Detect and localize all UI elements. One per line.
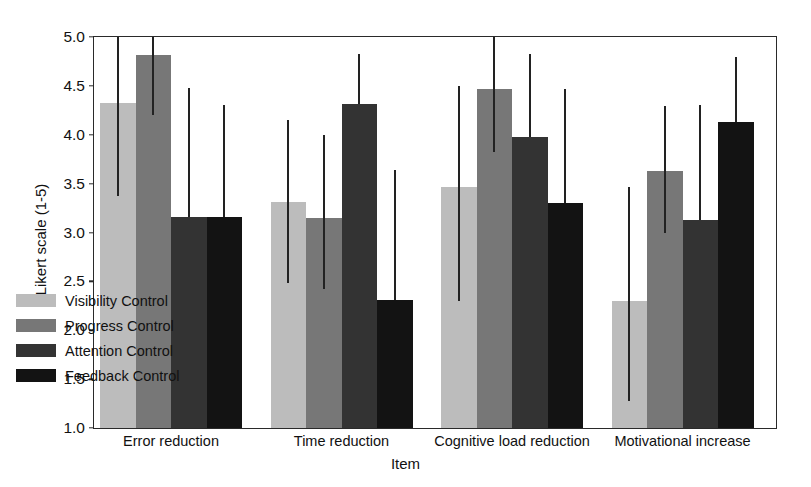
error-bar	[699, 105, 701, 219]
legend-swatch-icon	[16, 344, 56, 357]
legend-label: Progress Control	[65, 318, 174, 334]
error-bar	[493, 37, 495, 152]
y-axis-tick-mark	[89, 427, 94, 428]
error-bar	[735, 57, 737, 122]
bar	[342, 104, 378, 428]
legend-label: Attention Control	[65, 343, 173, 359]
chart-legend: Visibility ControlProgress ControlAttent…	[12, 286, 183, 390]
plot-area: 1.01.52.02.53.03.54.04.55.0Error reducti…	[93, 36, 777, 429]
legend-swatch-icon	[16, 369, 56, 382]
y-axis-tick-mark	[89, 134, 94, 135]
legend-swatch-icon	[16, 294, 56, 307]
legend-item: Feedback Control	[16, 363, 179, 388]
legend-item: Attention Control	[16, 338, 179, 363]
x-axis-group-label: Motivational increase	[614, 433, 750, 449]
bar-chart-figure: Likert scale (1-5) 1.01.52.02.53.03.54.0…	[0, 0, 811, 487]
error-bar	[358, 54, 360, 105]
error-bar	[323, 135, 325, 289]
y-axis-tick-mark	[89, 281, 94, 282]
error-bar	[188, 88, 190, 217]
legend-label: Visibility Control	[65, 293, 168, 309]
error-bar	[394, 170, 396, 300]
y-axis-tick-mark	[89, 36, 94, 37]
error-bar	[664, 106, 666, 233]
x-axis-label: Item	[0, 455, 811, 472]
y-axis-tick-mark	[89, 85, 94, 86]
plot-inner	[94, 37, 776, 428]
y-axis-tick-label: 5.0	[39, 28, 94, 46]
error-bar	[458, 86, 460, 301]
bar	[512, 137, 548, 428]
error-bar	[117, 37, 119, 196]
legend-label: Feedback Control	[65, 368, 179, 384]
legend-item: Progress Control	[16, 313, 179, 338]
y-axis-tick-mark	[89, 183, 94, 184]
bar	[207, 217, 243, 428]
y-axis-tick-label: 4.5	[39, 77, 94, 95]
legend-swatch-icon	[16, 319, 56, 332]
error-bar	[628, 187, 630, 401]
y-axis-tick-label: 1.0	[39, 419, 94, 437]
x-axis-group-label: Time reduction	[294, 433, 389, 449]
y-axis-tick-label: 4.0	[39, 126, 94, 144]
error-bar	[564, 89, 566, 203]
y-axis-tick-label: 3.0	[39, 224, 94, 242]
bar	[377, 300, 413, 428]
x-axis-group-label: Cognitive load reduction	[434, 433, 590, 449]
y-axis-tick-label: 3.5	[39, 175, 94, 193]
legend-item: Visibility Control	[16, 288, 179, 313]
error-bar	[223, 105, 225, 216]
y-axis-tick-mark	[89, 232, 94, 233]
bar	[683, 220, 719, 428]
error-bar	[529, 54, 531, 137]
bar	[718, 122, 754, 428]
bar	[548, 203, 584, 428]
error-bar	[287, 120, 289, 283]
error-bar	[152, 37, 154, 115]
x-axis-group-label: Error reduction	[123, 433, 219, 449]
